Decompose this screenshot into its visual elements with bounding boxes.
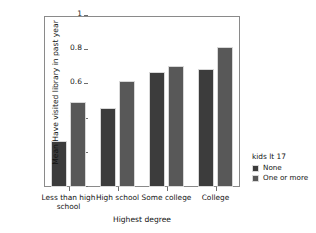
bar (198, 69, 214, 187)
x-tick-mark (69, 187, 70, 191)
bar (168, 66, 184, 187)
legend-rows: NoneOne or more (252, 164, 314, 182)
x-tick-label: College (184, 194, 248, 203)
bar (119, 81, 135, 187)
y-tick-mark (84, 15, 88, 16)
bar (217, 47, 233, 187)
y-tick-label: 0.8 (70, 44, 82, 52)
bar (100, 108, 116, 187)
y-tick-mark (84, 49, 88, 50)
legend-swatch-icon (252, 175, 259, 182)
bar (70, 102, 86, 188)
legend-item[interactable]: One or more (252, 174, 314, 182)
x-tick-mark (216, 187, 217, 191)
legend-item[interactable]: None (252, 164, 314, 172)
x-tick-mark (167, 187, 168, 191)
x-axis-title: Highest degree (44, 215, 240, 224)
y-tick-mark (84, 83, 88, 84)
y-axis-title: Mean Have visited library in past year (51, 7, 60, 179)
legend-item-label: One or more (263, 174, 308, 182)
chart-legend: kids lt 17 NoneOne or more (252, 152, 314, 184)
legend-swatch-icon (252, 165, 259, 172)
bar (149, 72, 165, 187)
plot-area: 00.20.40.60.81 Less than high schoolHigh… (44, 16, 240, 187)
legend-item-label: None (263, 164, 282, 172)
bar-chart-figure: 00.20.40.60.81 Less than high schoolHigh… (0, 0, 316, 233)
y-tick-label: 1 (77, 10, 82, 18)
legend-title: kids lt 17 (252, 152, 314, 161)
x-tick-mark (118, 187, 119, 191)
y-tick-label: 0.6 (70, 78, 82, 86)
